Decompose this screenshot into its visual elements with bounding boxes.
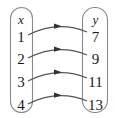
mapping-arrow-4-to-13 xyxy=(28,93,87,104)
input-value-1: 1 xyxy=(11,30,31,45)
output-value-11: 11 xyxy=(83,75,108,90)
input-value-4: 4 xyxy=(11,98,31,113)
input-value-2: 2 xyxy=(11,52,31,67)
mapping-diagram: x 1 2 3 4 y 7 9 11 13 xyxy=(0,0,116,118)
input-variable-label: x xyxy=(11,13,31,26)
mapping-arrow-3-to-11 xyxy=(28,70,87,81)
input-value-3: 3 xyxy=(11,75,31,90)
output-variable-label: y xyxy=(83,13,108,26)
output-value-9: 9 xyxy=(83,52,108,67)
mapping-arrow-2-to-9 xyxy=(28,47,87,58)
output-value-13: 13 xyxy=(83,98,108,113)
output-value-7: 7 xyxy=(83,30,108,45)
mapping-arrow-1-to-7 xyxy=(28,24,87,35)
